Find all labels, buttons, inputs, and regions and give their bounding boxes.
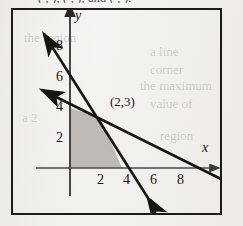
y-axis-tick-8: 8 xyxy=(56,38,63,54)
y-axis-tick-4: 4 xyxy=(56,99,63,115)
intersection-point-label: (2,3) xyxy=(110,94,135,110)
x-axis-tick-8: 8 xyxy=(177,172,184,188)
figure-page: the regiona linecornerthe maximumvalue o… xyxy=(0,0,243,226)
y-axis-tick-2: 2 xyxy=(56,130,63,146)
y-axis-tick-6: 6 xyxy=(56,69,63,85)
x-axis-tick-6: 6 xyxy=(150,172,157,188)
coordinate-plot xyxy=(0,0,243,226)
x-axis-tick-2: 2 xyxy=(97,172,104,188)
x-axis-label: x xyxy=(202,140,208,156)
x-axis-tick-4: 4 xyxy=(123,172,130,188)
y-axis-label: y xyxy=(75,8,81,24)
